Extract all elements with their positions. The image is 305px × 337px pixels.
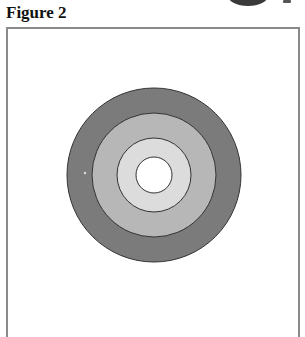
ring-marker-dot — [84, 172, 86, 174]
center-circle — [136, 157, 172, 193]
